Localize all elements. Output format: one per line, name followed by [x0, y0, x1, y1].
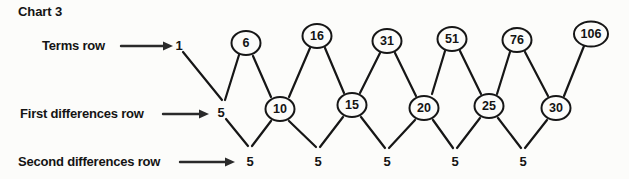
term-node-circle: 6: [231, 30, 262, 56]
terms-row-label: Terms row: [42, 38, 105, 53]
first-difference-node-circle: 15: [337, 92, 368, 118]
second-difference-value: 5: [246, 155, 253, 168]
term-node-circle: 31: [372, 28, 403, 54]
difference-chart-figure: Chart 3 Terms row First differences row …: [0, 0, 629, 179]
chart-title: Chart 3: [18, 4, 62, 19]
term-value: 1: [175, 39, 182, 52]
terms-row-arrow-icon: [121, 46, 226, 162]
second-differences-row-label: Second differences row: [18, 154, 160, 169]
second-difference-value: 5: [383, 155, 390, 168]
first-difference-node-circle: 30: [541, 95, 572, 121]
term-node-circle: 76: [502, 27, 533, 53]
first-difference-node-circle: 20: [409, 95, 440, 121]
term-node-circle: 106: [573, 21, 609, 48]
term-node-circle: 16: [302, 23, 333, 49]
second-difference-value: 5: [519, 155, 526, 168]
term-node-circle: 51: [437, 26, 468, 52]
first-difference-node-circle: 10: [265, 96, 296, 122]
first-difference-node-circle: 25: [474, 93, 505, 119]
first-difference-value: 5: [217, 106, 224, 119]
second-difference-value: 5: [314, 155, 321, 168]
first-differences-row-label: First differences row: [20, 106, 144, 121]
second-difference-value: 5: [451, 155, 458, 168]
